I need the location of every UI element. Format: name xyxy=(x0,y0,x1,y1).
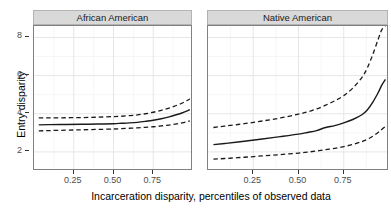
x-tick-label: 0.75 xyxy=(137,175,167,185)
y-tick-mark xyxy=(25,150,29,151)
x-axis-0: 0.250.500.75 xyxy=(33,170,192,188)
x-tick-mark xyxy=(113,170,114,174)
x-tick-mark xyxy=(73,170,74,174)
x-tick-label: 0.50 xyxy=(283,175,313,185)
x-tick-mark xyxy=(252,170,253,174)
x-tick-label: 0.75 xyxy=(328,175,358,185)
panel-plot-svg xyxy=(208,26,388,170)
series-line-upper-bound xyxy=(213,26,385,128)
chart-figure: Entry disparity 2468 African American Na… xyxy=(0,0,391,209)
y-tick-label: 4 xyxy=(0,108,22,117)
series-line-upper-bound xyxy=(39,99,190,118)
plot-area-0 xyxy=(33,25,192,170)
y-tick-mark xyxy=(25,112,29,113)
panel-plot-svg xyxy=(34,26,192,170)
y-axis: 2468 xyxy=(0,0,29,209)
y-tick-mark xyxy=(25,36,29,37)
series-line-lower-bound xyxy=(39,121,190,131)
x-tick-mark xyxy=(298,170,299,174)
x-tick-mark xyxy=(152,170,153,174)
panel-strip-label-0: African American xyxy=(33,10,192,25)
series-line-estimate xyxy=(213,79,385,144)
x-tick-label: 0.50 xyxy=(98,175,128,185)
x-axis-title: Incarceration disparity, percentiles of … xyxy=(33,190,389,202)
y-tick-label: 2 xyxy=(0,146,22,155)
x-tick-label: 0.25 xyxy=(237,175,267,185)
y-tick-label: 6 xyxy=(0,70,22,79)
x-tick-mark xyxy=(343,170,344,174)
series-line-lower-bound xyxy=(213,126,385,159)
y-tick-mark xyxy=(25,74,29,75)
x-axis-1: 0.250.500.75 xyxy=(207,170,388,188)
x-tick-label: 0.25 xyxy=(58,175,88,185)
plot-area-1 xyxy=(207,25,388,170)
panel-strip-label-1: Native American xyxy=(207,10,388,25)
y-tick-label: 8 xyxy=(0,31,22,40)
